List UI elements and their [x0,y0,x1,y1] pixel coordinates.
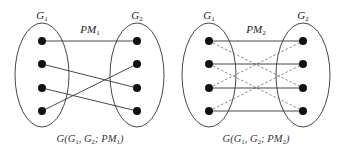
matching-edge [42,88,137,111]
matching-label: PM2 [245,23,266,37]
left-node [38,107,46,115]
left-node [205,107,213,115]
matching-label: PM1 [79,23,100,37]
set-label-right: G2 [131,9,143,23]
diagram-caption: G(G1, G2; PM1) [57,133,124,146]
set-label-left: G1 [203,9,215,23]
left-node [38,60,46,68]
left-node [205,37,213,45]
matching-edge [42,64,137,88]
set-label-right: G2 [297,9,309,23]
right-node [133,84,141,92]
diagram-caption: G(G1, G2; PM2) [223,133,290,146]
left-node [38,84,46,92]
right-node [133,107,141,115]
right-node [299,107,307,115]
right-node [299,84,307,92]
left-node [38,37,46,45]
left-node [205,60,213,68]
right-node [133,60,141,68]
right-node [299,37,307,45]
right-node [133,37,141,45]
matching-edge [42,64,137,111]
set-label-left: G1 [36,9,48,23]
bipartite-matching-diagrams: G1G2PM1G(G1, G2; PM1)G1G2PM2G(G1, G2; PM… [0,0,343,153]
right-node [299,60,307,68]
left-node [205,84,213,92]
